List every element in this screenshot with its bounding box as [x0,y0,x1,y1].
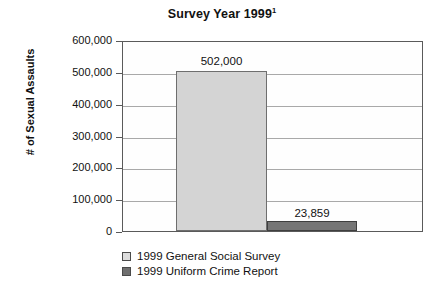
legend-swatch-icon [122,267,131,276]
plot-inner: 502,000 23,859 [123,42,422,231]
y-tick-mark [116,232,122,233]
legend-item-label: 1999 Uniform Crime Report [137,265,278,277]
gridline [123,106,422,107]
chart-figure: Survey Year 19991 # of Sexual Assaults 6… [0,0,444,306]
bar-value-label-uniform-crime-report: 23,859 [267,207,357,219]
chart-title-text: Survey Year 1999 [168,7,272,21]
gridline [123,201,422,202]
y-tick-label: 0 [106,225,112,237]
plot-area: 502,000 23,859 [122,41,423,232]
legend-swatch-icon [122,252,131,261]
chart-title: Survey Year 19991 [0,7,444,21]
y-tick-label: 100,000 [72,193,112,205]
bar-value-label-general-social-survey: 502,000 [176,55,267,67]
chart-legend: 1999 General Social Survey 1999 Uniform … [0,250,444,277]
legend-item-general-social-survey[interactable]: 1999 General Social Survey [122,250,322,262]
y-tick-label: 400,000 [72,98,112,110]
gridline [123,74,422,75]
legend-item-uniform-crime-report[interactable]: 1999 Uniform Crime Report [122,265,322,277]
bar-uniform-crime-report[interactable] [267,221,357,231]
y-tick-label: 200,000 [72,161,112,173]
y-tick-label: 600,000 [72,34,112,46]
y-tick-label: 500,000 [72,66,112,78]
chart-title-footnote-marker: 1 [272,6,276,15]
gridline [123,138,422,139]
y-tick-label: 300,000 [72,130,112,142]
gridline [123,169,422,170]
bar-general-social-survey[interactable] [176,71,267,231]
y-axis-title: # of Sexual Assaults [24,17,36,187]
legend-item-label: 1999 General Social Survey [137,250,280,262]
